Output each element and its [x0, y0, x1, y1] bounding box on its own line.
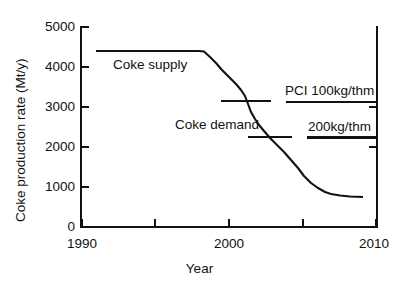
- y-tick-label-3000: 3000: [32, 100, 75, 114]
- chart-figure: 5000 4000 3000 2000 1000 0 1990 2000 201…: [0, 0, 399, 286]
- y-tick-label-5000: 5000: [32, 20, 75, 34]
- x-tick-label-2000: 2000: [199, 237, 259, 251]
- y-tick-label-1000: 1000: [32, 180, 75, 194]
- x-axis-title: Year: [0, 262, 399, 276]
- y-tick-label-4000: 4000: [32, 60, 75, 74]
- x-tick-label-2010: 2010: [344, 237, 399, 251]
- annotation-coke-demand: Coke demand: [175, 118, 259, 132]
- annotation-pci-100: PCI 100kg/thm: [285, 84, 374, 98]
- x-tick-label-1990: 1990: [52, 237, 112, 251]
- y-tick-label-0: 0: [32, 220, 75, 234]
- y-tick-label-2000: 2000: [32, 140, 75, 154]
- y-axis-title: Coke production rate (Mt/y): [14, 58, 28, 222]
- annotation-pci-200: 200kg/thm: [308, 120, 371, 134]
- annotation-coke-supply: Coke supply: [113, 58, 187, 72]
